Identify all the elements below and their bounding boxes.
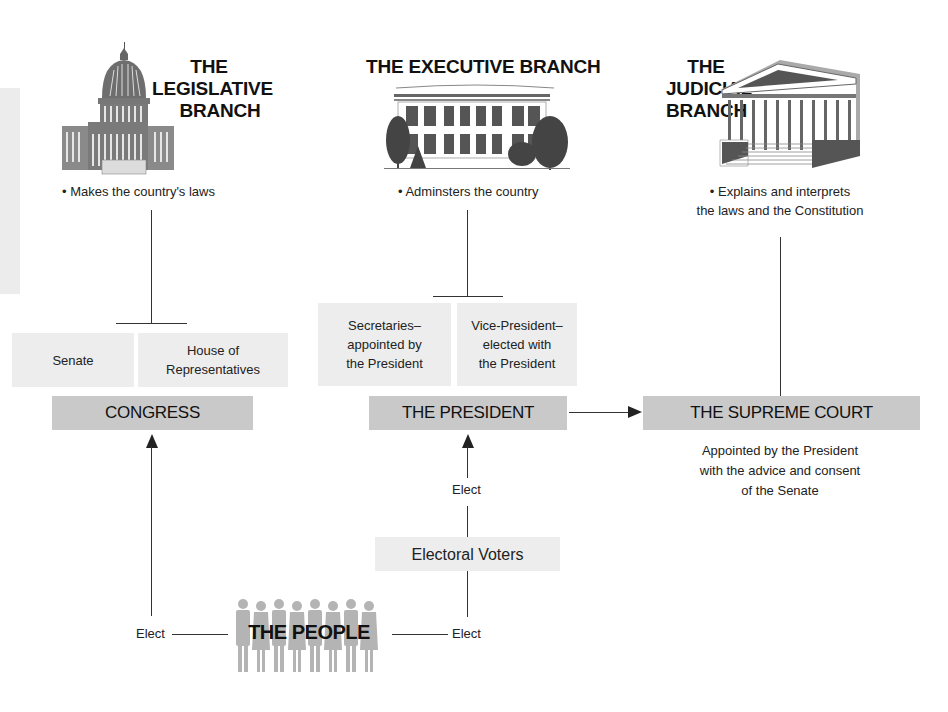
president-label: THE PRESIDENT bbox=[402, 403, 534, 423]
judicial-description-line-2: the laws and the Constitution bbox=[680, 201, 880, 220]
congress-box: CONGRESS bbox=[52, 396, 253, 430]
supreme-court-note: Appointed by the President with the advi… bbox=[660, 441, 900, 501]
white-house-icon bbox=[384, 84, 570, 172]
senate-box: Senate bbox=[12, 333, 134, 387]
executive-bracket-line bbox=[433, 296, 503, 297]
vice-president-line-1: Vice-President– bbox=[471, 316, 563, 335]
legislative-connector-line bbox=[151, 210, 152, 323]
electors-to-president-line-lower bbox=[467, 506, 468, 537]
supreme-court-note-line-3: of the Senate bbox=[660, 481, 900, 501]
judicial-description: • Explains and interprets the laws and t… bbox=[680, 182, 880, 220]
secretaries-line-3: the President bbox=[346, 354, 423, 373]
supreme-court-label: THE SUPREME COURT bbox=[690, 403, 873, 423]
vice-president-line-3: the President bbox=[479, 354, 556, 373]
arrowhead-up-icon bbox=[462, 434, 474, 448]
judicial-description-line-1: • Explains and interprets bbox=[680, 182, 880, 201]
congress-label: CONGRESS bbox=[105, 403, 200, 423]
house-of-representatives-box: House of Representatives bbox=[138, 333, 288, 387]
legislative-description: • Makes the country's laws bbox=[62, 182, 242, 201]
people-to-congress-line bbox=[151, 446, 152, 616]
left-edge-strip bbox=[0, 88, 20, 294]
supreme-court-box: THE SUPREME COURT bbox=[643, 396, 920, 430]
vice-president-line-2: elected with bbox=[483, 335, 552, 354]
elect-upper-label: Elect bbox=[452, 482, 481, 497]
elect-right-label: Elect bbox=[452, 626, 481, 641]
legislative-branch-title: THE LEGISLATIVE BRANCH bbox=[152, 56, 266, 122]
supreme-court-note-line-1: Appointed by the President bbox=[660, 441, 900, 461]
executive-branch-title: THE EXECUTIVE BRANCH bbox=[366, 56, 576, 78]
legislative-title-line-2: LEGISLATIVE bbox=[152, 78, 266, 100]
the-people-label: THE PEOPLE bbox=[234, 621, 384, 644]
president-box: THE PRESIDENT bbox=[369, 396, 567, 430]
supreme-court-note-line-2: with the advice and consent bbox=[660, 461, 900, 481]
judicial-connector-line bbox=[780, 237, 781, 396]
elect-left-label: Elect bbox=[136, 626, 165, 641]
senate-label: Senate bbox=[52, 351, 93, 370]
arrowhead-up-icon bbox=[146, 434, 158, 448]
appoints-arrow-line bbox=[569, 412, 631, 413]
secretaries-line-1: Secretaries– bbox=[348, 316, 421, 335]
secretaries-box: Secretaries– appointed by the President bbox=[318, 303, 451, 386]
secretaries-line-2: appointed by bbox=[347, 335, 421, 354]
legislative-title-line-3: BRANCH bbox=[152, 100, 266, 122]
executive-description: • Adminsters the country bbox=[398, 182, 558, 201]
supreme-court-building-icon bbox=[718, 56, 864, 172]
electors-to-president-line bbox=[467, 446, 468, 478]
legislative-title-line-1: THE bbox=[152, 56, 266, 78]
house-label-line-2: Representatives bbox=[166, 360, 260, 379]
elect-left-connector bbox=[172, 634, 228, 635]
executive-connector-line bbox=[467, 210, 468, 296]
people-to-electors-line bbox=[467, 571, 468, 617]
electoral-voters-box: Electoral Voters bbox=[375, 537, 560, 571]
arrowhead-right-icon bbox=[628, 406, 642, 418]
electoral-voters-label: Electoral Voters bbox=[411, 545, 523, 564]
house-label-line-1: House of bbox=[187, 341, 239, 360]
legislative-bracket-line bbox=[116, 323, 187, 324]
vice-president-box: Vice-President– elected with the Preside… bbox=[457, 303, 577, 386]
elect-right-connector bbox=[392, 634, 448, 635]
